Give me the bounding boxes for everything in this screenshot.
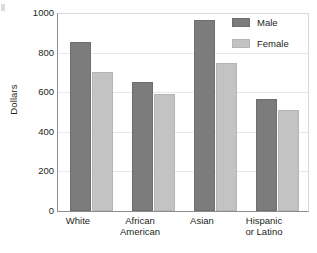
bar-group-white	[70, 13, 113, 211]
y-tick-label: 600	[20, 87, 54, 97]
x-axis-label-line: Hispanic	[221, 216, 307, 227]
bar-female-asian	[216, 63, 237, 211]
legend-swatch-female-icon	[232, 39, 250, 48]
bar-group-african-american	[132, 13, 175, 211]
bar-female-african-american	[154, 94, 175, 211]
bar-male-african-american	[132, 82, 153, 211]
y-tick-label: 200	[20, 166, 54, 176]
bar-chart: Dollars 1000 800 600 400 200 0	[0, 0, 317, 253]
x-axis-label-hispanic-or-latino: Hispanic or Latino	[221, 216, 307, 237]
y-axis-title: Dollars	[8, 70, 19, 130]
y-tick-label: 400	[20, 127, 54, 137]
x-axis-label-line: or Latino	[221, 227, 307, 238]
legend: Male Female	[232, 15, 312, 57]
legend-item-male: Male	[232, 15, 312, 30]
bar-female-hispanic-or-latino	[278, 110, 299, 211]
y-tick-label: 1000	[20, 8, 54, 18]
bar-male-white	[70, 42, 91, 211]
legend-item-female: Female	[232, 36, 312, 51]
legend-label-male: Male	[257, 17, 278, 28]
bar-group-asian	[194, 13, 237, 211]
bar-female-white	[92, 72, 113, 211]
legend-label-female: Female	[257, 38, 289, 49]
y-tick-label: 800	[20, 48, 54, 58]
y-tick-label: 0	[20, 206, 54, 216]
bar-male-hispanic-or-latino	[256, 99, 277, 211]
bar-male-asian	[194, 20, 215, 211]
legend-swatch-male-icon	[232, 18, 250, 27]
x-axis-label-line: American	[97, 227, 183, 238]
scan-artifact	[1, 4, 5, 11]
